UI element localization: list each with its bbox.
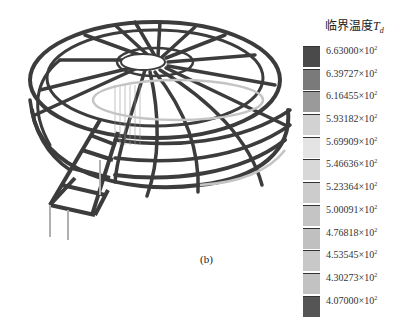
figure-caption: (b): [200, 253, 213, 265]
legend-swatch: [303, 91, 320, 112]
legend-value: 5.93182×102: [326, 113, 377, 124]
legend-value: 6.39727×102: [326, 68, 377, 79]
dome-wireframe-drawing: [0, 0, 300, 277]
legend-value: 4.76818×102: [326, 227, 377, 238]
legend-value: 6.63000×102: [326, 45, 377, 56]
dome-structure-figure: (b): [0, 0, 300, 277]
legend-swatch: [303, 69, 320, 90]
legend-swatch: [303, 296, 320, 317]
legend-value: 5.00091×102: [326, 204, 377, 215]
legend-value: 4.53545×102: [326, 249, 377, 260]
legend-swatch: [303, 137, 320, 158]
legend-swatch: [303, 114, 320, 135]
legend-swatch: [303, 273, 320, 294]
legend-value: 5.69909×102: [326, 136, 377, 147]
legend-value: 4.07000×102: [326, 295, 377, 306]
legend-swatch: [303, 182, 320, 203]
legend-swatch: [303, 46, 320, 67]
legend-swatch: [303, 228, 320, 249]
legend-swatch: [303, 205, 320, 226]
legend-swatch: [303, 250, 320, 271]
legend-value: 6.16455×102: [326, 90, 377, 101]
legend-title: 临界温度Td: [325, 16, 384, 35]
legend-value: 5.46636×102: [326, 158, 377, 169]
legend-swatch: [303, 159, 320, 180]
legend-value: 5.23364×102: [326, 181, 377, 192]
legend-value: 4.30273×102: [326, 272, 377, 283]
